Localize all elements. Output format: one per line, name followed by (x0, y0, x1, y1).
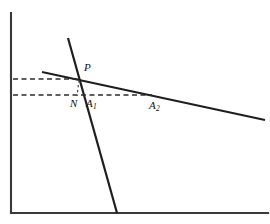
diagram-canvas (0, 0, 270, 224)
steep-line (68, 38, 117, 213)
drop-segment-p-to-n (77, 80, 79, 96)
label-a2-subscript: 2 (156, 104, 160, 113)
label-n-text: N (70, 97, 77, 109)
label-p: P (84, 62, 91, 73)
label-a1-subscript: 1 (93, 102, 97, 111)
label-a1-text: A (86, 97, 93, 109)
label-a1: A1 (86, 98, 96, 109)
label-p-text: P (84, 61, 91, 73)
figure-container: P N A1 A2 (0, 0, 270, 224)
label-a2: A2 (149, 100, 159, 111)
label-a2-text: A (149, 99, 156, 111)
label-n: N (70, 98, 77, 109)
